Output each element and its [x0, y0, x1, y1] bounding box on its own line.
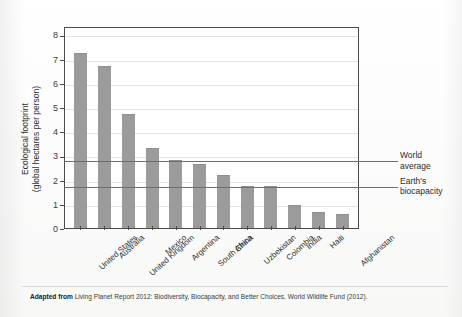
bar-australia: [98, 66, 111, 228]
x-tick: [295, 226, 296, 230]
x-label-haiti: Haiti: [328, 233, 346, 250]
reference-line-earths-biocapacity: [64, 187, 398, 188]
bar-slot: [283, 28, 307, 228]
annotation-line2: biocapacity: [400, 186, 458, 197]
x-tick: [128, 226, 129, 230]
annotation-line2: average: [400, 161, 458, 172]
bar-series: [65, 28, 358, 228]
y-tick-label: 0: [53, 224, 64, 234]
x-label-china: China: [234, 233, 256, 254]
x-tick: [152, 226, 153, 230]
y-tick-label: 1: [53, 200, 64, 210]
bar-slot: [188, 28, 212, 228]
bar-argentina: [169, 160, 182, 228]
annotation-line1: Earth's: [400, 176, 458, 187]
bar-united-kingdom: [122, 114, 135, 228]
y-axis-title: Ecological footprint (global hectares pe…: [20, 64, 42, 214]
x-tick: [200, 226, 201, 230]
y-tick-label: 8: [53, 30, 64, 40]
annotation-line1: World: [400, 150, 458, 161]
x-axis-labels: United StatesAustraliaUnited KingdomMexi…: [64, 230, 359, 290]
bar-india: [288, 205, 301, 228]
bar-slot: [164, 28, 188, 228]
x-tick: [343, 226, 344, 230]
figure-caption: Adapted from Living Planet Report 2012: …: [30, 292, 448, 301]
x-tick: [247, 226, 248, 230]
bar-slot: [235, 28, 259, 228]
bar-slot: [212, 28, 236, 228]
caption-text: Living Planet Report 2012: Biodiversity,…: [73, 293, 368, 300]
x-tick: [271, 226, 272, 230]
bar-slot: [117, 28, 141, 228]
y-tick-label: 2: [53, 176, 64, 186]
bar-colombia: [264, 186, 277, 228]
bar-united-states: [74, 53, 87, 228]
bar-south-africa: [193, 164, 206, 228]
x-tick: [104, 226, 105, 230]
y-tick-label: 7: [53, 55, 64, 65]
x-tick: [223, 226, 224, 230]
y-tick-label: 6: [53, 79, 64, 89]
y-tick-label: 3: [53, 151, 64, 161]
x-tick: [80, 226, 81, 230]
y-axis-ticks: 012345678: [46, 27, 64, 229]
y-axis-title-line2: (global hectares per person): [31, 64, 42, 214]
annotation-earths-biocapacity: Earth'sbiocapacity: [400, 176, 458, 197]
x-tick: [319, 226, 320, 230]
bar-china: [217, 175, 230, 228]
plot-area: [64, 27, 359, 229]
caption-divider: [22, 286, 448, 287]
bar-slot: [259, 28, 283, 228]
bar-slot: [330, 28, 354, 228]
y-axis-title-line1: Ecological footprint: [20, 64, 31, 214]
bar-mexico: [146, 148, 159, 228]
bar-uzbekistan: [241, 186, 254, 228]
annotation-world-average: Worldaverage: [400, 150, 458, 171]
bar-slot: [307, 28, 331, 228]
bar-slot: [69, 28, 93, 228]
y-tick-label: 5: [53, 103, 64, 113]
caption-lead: Adapted from: [30, 293, 73, 300]
y-tick-label: 4: [53, 127, 64, 137]
bar-slot: [140, 28, 164, 228]
x-tick: [176, 226, 177, 230]
reference-line-world-average: [64, 161, 398, 162]
bar-slot: [93, 28, 117, 228]
